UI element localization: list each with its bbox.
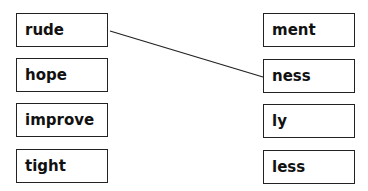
word-box-improve[interactable]: improve <box>16 103 108 137</box>
suffix-box-less[interactable]: less <box>263 150 355 184</box>
suffix-box-ment[interactable]: ment <box>263 13 355 47</box>
word-box-rude[interactable]: rude <box>16 13 108 47</box>
word-box-tight[interactable]: tight <box>16 149 108 183</box>
suffix-box-ly[interactable]: ly <box>263 104 355 138</box>
connection-rude-ness[interactable] <box>110 31 263 77</box>
suffix-box-ness[interactable]: ness <box>263 59 355 93</box>
word-box-hope[interactable]: hope <box>16 58 108 92</box>
